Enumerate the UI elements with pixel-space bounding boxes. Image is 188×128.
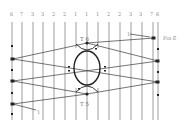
column-number: 1 — [74, 11, 77, 17]
pin-mark — [104, 70, 106, 72]
column-number: 3 — [31, 11, 34, 17]
pin-mark — [11, 45, 13, 47]
pin-mark — [157, 48, 159, 50]
pin-mark — [152, 37, 156, 40]
column-number: 3 — [41, 11, 44, 17]
column-number: 2 — [63, 11, 66, 17]
tally-label-top: T 6 — [80, 36, 89, 42]
pin-label: Pin E — [163, 35, 177, 41]
pin-mark — [68, 70, 70, 72]
pin-mark — [11, 58, 15, 61]
pin-mark — [78, 88, 80, 90]
weaver-threads — [13, 34, 158, 110]
pin-dot — [85, 92, 88, 95]
pin-mark — [68, 66, 70, 68]
lace-diagram: 6 7 3 3 2 2 1 1 1 2 2 3 3 7 6 — [0, 0, 188, 128]
pin-mark — [11, 103, 15, 106]
thread-label-bottom: 1 — [37, 109, 40, 115]
pin-mark — [11, 69, 13, 71]
column-number: 7 — [150, 11, 153, 17]
column-number: 6 — [156, 11, 159, 17]
pin-mark — [11, 92, 13, 94]
column-number: 3 — [129, 11, 132, 17]
column-number: 1 — [85, 11, 88, 17]
column-number: 3 — [139, 11, 142, 17]
column-number: 1 — [96, 11, 99, 17]
thread-label-top: 1 — [127, 31, 130, 37]
pin-mark — [157, 94, 159, 96]
pin-mark — [104, 66, 106, 68]
pin-mark — [156, 81, 160, 84]
pin-mark — [11, 80, 15, 83]
column-number: 2 — [118, 11, 121, 17]
column-number: 6 — [10, 11, 13, 17]
pin-mark — [95, 48, 97, 50]
column-number: 7 — [20, 11, 23, 17]
pin-mark — [157, 71, 159, 73]
tally-label-bottom: T 5 — [80, 101, 89, 107]
column-number: 2 — [107, 11, 110, 17]
pin-mark — [156, 60, 160, 63]
column-numbers: 6 7 3 3 2 2 1 1 1 2 2 3 3 7 6 — [10, 11, 159, 17]
column-number: 2 — [52, 11, 55, 17]
pin-mark — [11, 113, 13, 115]
